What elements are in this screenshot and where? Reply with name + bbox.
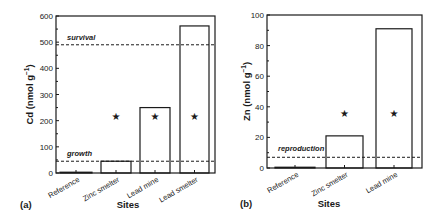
significance-star-icon: ★ [390,108,399,119]
category-label: Reference [266,170,300,195]
threshold-label-growth: growth [66,149,92,158]
y-tick-label: 0 [260,164,265,173]
chart-panel-a: Reference★Zinc smelter★Lead mine★Lead sm… [20,12,215,210]
chart-panel-b: Reference★Zinc smelter★Lead minereproduc… [240,11,422,209]
y-tick-label: 100 [40,143,54,152]
significance-star-icon: ★ [112,111,121,122]
y-tick-label: 40 [255,103,264,112]
category-label: Reference [47,175,81,200]
y-tick-label: 20 [255,133,264,142]
threshold-label-survival: survival [67,33,96,42]
category-label: Lead mine [364,170,399,195]
y-tick-label: 600 [40,12,54,21]
y-tick-label: 60 [255,72,264,81]
y-tick-label: 300 [40,91,54,100]
bar-lead-smelter [180,26,209,173]
panel-label: (a) [20,199,32,210]
bar-lead-mine [376,29,412,168]
category-label: Zinc smelter [310,170,350,198]
y-axis-label: Cd (nmol g−1) [23,64,35,124]
category-label: Lead mine [125,175,160,200]
y-axis-label: Zn (nmol g−1) [240,62,252,121]
x-axis-label: Sites [318,198,341,209]
y-tick-label: 400 [40,64,54,73]
significance-star-icon: ★ [151,111,160,122]
significance-star-icon: ★ [340,108,349,119]
y-tick-label: 0 [49,169,54,178]
threshold-label-reproduction: reproduction [278,144,325,153]
category-label: Zinc smelter [81,175,121,203]
bar-zinc-smelter [326,136,363,168]
figure: Reference★Zinc smelter★Lead mine★Lead sm… [0,0,445,224]
x-axis-label: Sites [117,199,140,210]
y-tick-label: 200 [40,117,54,126]
y-tick-label: 500 [40,38,54,47]
significance-star-icon: ★ [190,111,199,122]
panel-label: (b) [240,198,252,209]
category-label: Lead smelter [157,175,199,205]
y-tick-label: 100 [251,11,265,20]
y-tick-label: 80 [255,42,264,51]
